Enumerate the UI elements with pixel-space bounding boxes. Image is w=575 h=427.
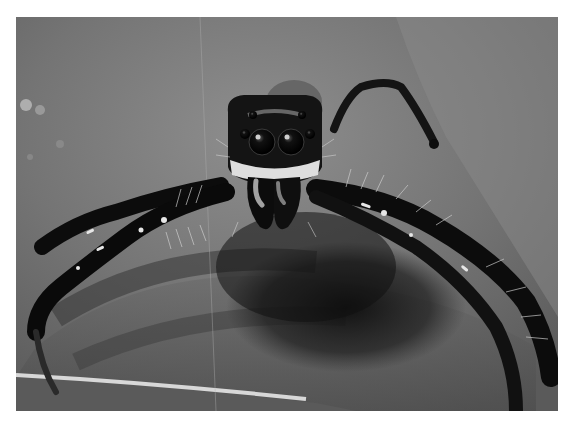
lateral-eye-left xyxy=(240,129,250,139)
caption xyxy=(16,419,558,427)
main-eye-right xyxy=(278,129,304,155)
main-eye-left xyxy=(249,129,275,155)
spider-photo xyxy=(16,17,558,411)
lateral-eye-right xyxy=(305,129,315,139)
bokeh-spot xyxy=(20,99,32,111)
spider-illustration xyxy=(16,17,558,411)
